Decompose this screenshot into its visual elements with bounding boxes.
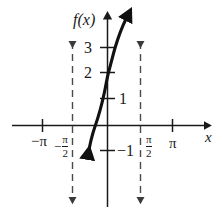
- x-tick-label-pi-over-2: π 2: [146, 134, 152, 159]
- y-axis-label: f(x): [73, 12, 95, 28]
- x-tick-label-neg-pi: −π: [31, 134, 47, 149]
- x-tick-label-neg-pi-over-2: − π 2: [54, 134, 68, 159]
- fraction-denominator: 2: [146, 148, 152, 159]
- fraction-minus-sign: −: [54, 139, 61, 155]
- fraction-numerator: π: [62, 134, 68, 145]
- x-tick-label-pi: π: [169, 136, 177, 151]
- fraction-numerator: π: [146, 134, 152, 145]
- y-tick-label-1: 1: [119, 91, 127, 107]
- y-tick-label-3: 3: [84, 40, 92, 56]
- fraction-denominator: 2: [62, 148, 68, 159]
- x-axis-label: x: [205, 130, 212, 145]
- y-tick-label-neg1: −1: [117, 143, 134, 159]
- graph-canvas: [0, 0, 223, 216]
- math-graph-figure: f(x) x 3 2 1 −1 −π − π 2 π 2 π: [0, 0, 223, 216]
- fraction-pi-over-2-right: π 2: [146, 134, 152, 159]
- y-tick-label-2: 2: [84, 65, 92, 81]
- fraction-pi-over-2: π 2: [62, 134, 68, 159]
